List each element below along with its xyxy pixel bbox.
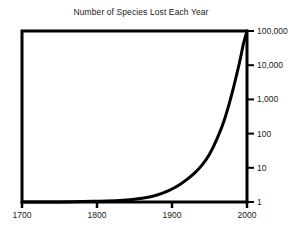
x-tick-label-1700: 1700 [13, 210, 32, 220]
x-tick-label-1900: 1900 [163, 210, 182, 220]
y-tick-label-100: 100 [257, 129, 271, 139]
y-tick-label-10000: 10,000 [257, 60, 283, 70]
y-tick-label-100000: 100,000 [257, 26, 288, 36]
x-tick-label-1800: 1800 [88, 210, 107, 220]
y-tick-label-10: 10 [257, 163, 266, 173]
chart-figure: Number of Species Lost Each Year 100,000… [0, 0, 307, 242]
plot-frame [22, 31, 247, 202]
y-tick-label-1: 1 [257, 197, 262, 207]
x-tick-label-2000: 2000 [238, 210, 257, 220]
y-tick-label-1000: 1,000 [257, 94, 278, 104]
